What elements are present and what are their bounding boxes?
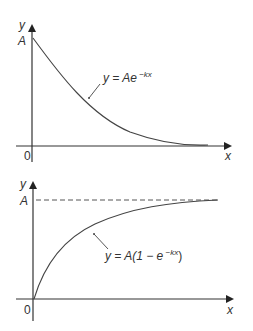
decay-equation: y = Ae −kx [102, 70, 153, 85]
decay-curve [33, 38, 208, 145]
annotation-pointer [94, 234, 108, 249]
decay-chart: y A 0 x y = Ae −kx [16, 18, 232, 163]
origin-label: 0 [24, 303, 31, 317]
annotation-pointer [89, 84, 100, 98]
growth-chart: y A 0 x y = A(1 − e −kx) [16, 177, 234, 321]
pointer-dot [93, 233, 95, 235]
pointer-dot [88, 97, 90, 99]
growth-equation: y = A(1 − e −kx) [104, 248, 182, 263]
a-tick-label: A [17, 34, 26, 48]
origin-label: 0 [24, 149, 31, 163]
a-tick-label: A [19, 194, 28, 208]
y-axis-label: y [19, 177, 27, 191]
figure: y A 0 x y = Ae −kx y A 0 x y = A(1 − e −… [0, 0, 253, 331]
y-axis-label: y [18, 18, 26, 32]
x-axis-label: x [224, 149, 232, 163]
x-axis-label: x [226, 303, 234, 317]
